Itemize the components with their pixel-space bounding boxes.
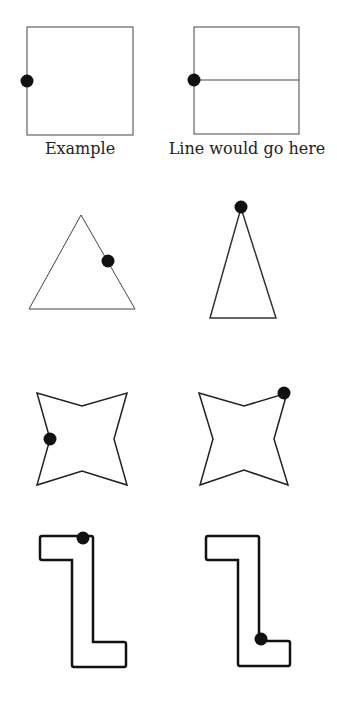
square-with-line <box>188 27 300 134</box>
star-right <box>199 387 291 486</box>
dot-marker <box>255 633 268 646</box>
dot-marker <box>77 532 90 545</box>
triangle-equilateral <box>29 215 135 309</box>
caption-example: Example <box>45 139 115 158</box>
dot-marker <box>21 75 34 88</box>
dot-marker <box>235 201 248 214</box>
square-example <box>21 27 134 135</box>
z-shape-right <box>206 536 290 666</box>
dot-marker <box>278 387 291 400</box>
caption-line-here: Line would go here <box>169 139 326 158</box>
dot-marker <box>102 255 115 268</box>
dot-marker <box>188 74 201 87</box>
z-shape-left <box>40 532 126 668</box>
diagram-canvas <box>0 0 337 707</box>
star-left <box>37 393 127 485</box>
triangle-tall <box>210 201 276 319</box>
dot-marker <box>44 433 57 446</box>
